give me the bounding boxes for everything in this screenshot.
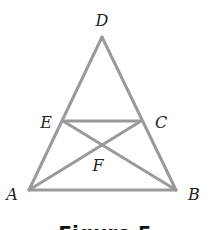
vertex-label-a: A: [4, 185, 18, 204]
figure-caption: Figure 5: [58, 221, 151, 230]
vertex-label-e: E: [39, 113, 52, 132]
vertex-label-b: B: [187, 185, 200, 204]
geometry-figure: DECFAB Figure 5: [0, 0, 210, 230]
vertex-label-d: D: [95, 11, 109, 30]
vertex-label-f: F: [91, 156, 104, 175]
vertex-label-c: C: [155, 113, 167, 132]
